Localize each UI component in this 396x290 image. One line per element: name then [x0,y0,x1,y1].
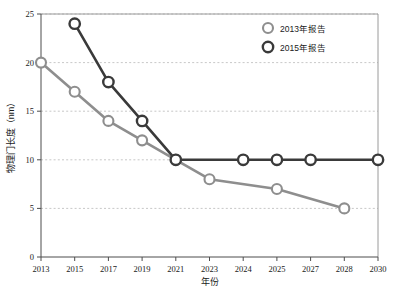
legend-label: 2013年报告 [280,24,326,34]
x-tick-label: 2021 [167,264,184,274]
x-tick-label: 2030 [370,264,387,274]
data-point-marker [70,87,80,97]
y-tick-label: 0 [30,252,34,262]
x-tick-label: 2024 [235,264,253,274]
series-line-b [75,24,378,160]
data-point-marker [171,155,181,165]
data-point-marker [137,135,147,145]
x-tick-label: 2025 [268,264,285,274]
x-axis-title: 年份 [201,276,219,287]
x-tick-label: 2027 [302,264,319,274]
y-tick-label: 5 [30,203,34,213]
x-tick-label: 2028 [336,264,353,274]
data-point-marker [305,155,315,165]
data-point-marker [103,77,113,87]
data-point-marker [36,58,46,68]
data-point-marker [339,203,349,213]
y-tick-label: 10 [26,155,35,165]
y-tick-label: 20 [26,58,35,68]
data-point-marker [272,155,282,165]
chart-canvas: 0510152025201320152017201920212023202420… [0,0,396,290]
legend-marker-a [263,23,273,33]
y-axis-title: 物理门长度（nm） [5,98,16,174]
data-point-marker [272,184,282,194]
legend-label: 2015年报告 [280,43,326,53]
x-tick-label: 2019 [134,264,151,274]
legend-marker-b [263,42,273,52]
data-point-marker [70,19,80,29]
data-point-marker [373,155,383,165]
data-point-marker [205,174,215,184]
series-line-a [41,63,344,209]
x-tick-label: 2013 [33,264,50,274]
x-tick-label: 2023 [201,264,218,274]
y-tick-label: 25 [26,9,35,19]
line-chart: 0510152025201320152017201920212023202420… [0,0,396,290]
data-point-marker [103,116,113,126]
data-point-marker [238,155,248,165]
x-tick-label: 2015 [66,264,83,274]
data-point-marker [137,116,147,126]
x-tick-label: 2017 [100,264,117,274]
y-tick-label: 15 [26,106,35,116]
